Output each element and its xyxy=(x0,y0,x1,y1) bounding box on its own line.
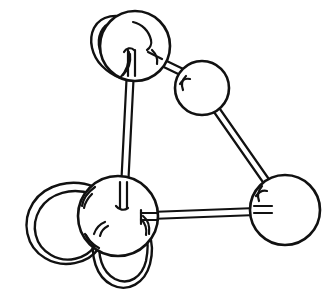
atom-right xyxy=(250,175,320,245)
molecule-canvas xyxy=(0,0,332,304)
molecular-diagram-figure: Ball-and-stick molecular model xyxy=(0,0,332,304)
atom-lower-left xyxy=(78,176,158,256)
